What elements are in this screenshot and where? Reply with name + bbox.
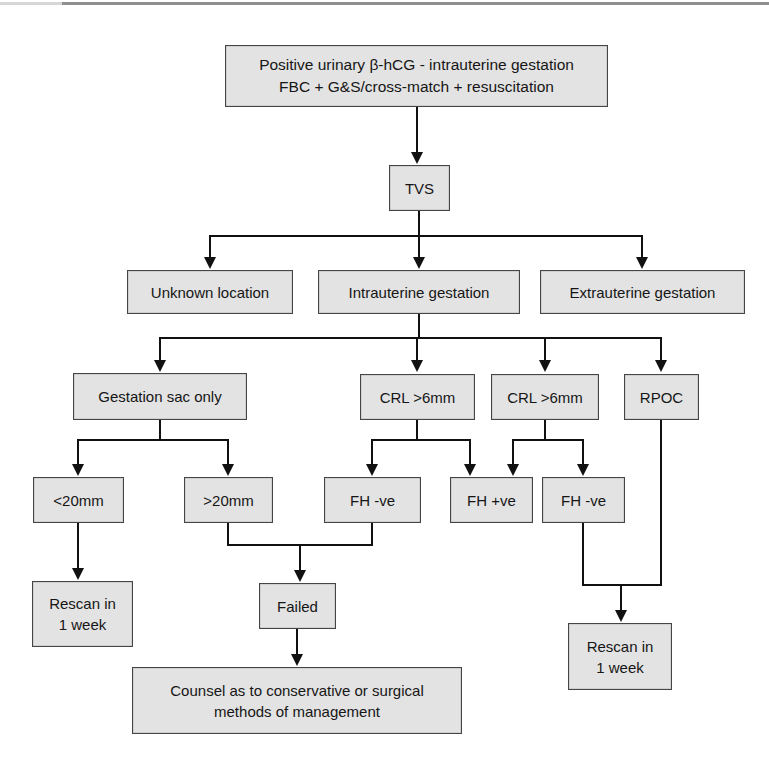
node-fh-negative-2: FH -ve	[542, 477, 625, 523]
node-rescan-1-week-left: Rescan in 1 week	[32, 581, 133, 647]
node-extrauterine-gestation: Extrauterine gestation	[540, 270, 745, 314]
node-rescan-1-week-right: Rescan in 1 week	[568, 623, 672, 690]
node-positive-bhcg: Positive urinary β-hCG - intrauterine ge…	[225, 45, 608, 107]
node-crl-6mm-2: CRL >6mm	[491, 374, 599, 420]
flowchart-page: Positive urinary β-hCG - intrauterine ge…	[0, 0, 769, 757]
edge-intrauterine-branches	[159, 314, 662, 366]
node-unknown-location: Unknown location	[127, 270, 293, 314]
node-greater-than-20mm: >20mm	[184, 477, 273, 523]
node-tvs: TVS	[389, 165, 450, 211]
node-rpoc: RPOC	[624, 374, 699, 420]
node-fh-positive: FH +ve	[450, 477, 533, 523]
node-less-than-20mm: <20mm	[33, 477, 124, 523]
edge-merge-failed	[227, 523, 373, 576]
edge-crl1-branches	[371, 420, 471, 470]
page-top-rule-left-segment	[0, 2, 62, 5]
edge-sac-branches	[77, 420, 229, 470]
node-crl-6mm-1: CRL >6mm	[360, 374, 475, 420]
edge-tvs-branches	[209, 211, 643, 263]
node-gestation-sac-only: Gestation sac only	[73, 373, 247, 420]
node-failed: Failed	[259, 583, 336, 629]
node-counsel-management: Counsel as to conservative or surgical m…	[132, 667, 462, 734]
page-top-rule	[0, 2, 769, 5]
node-fh-negative-1: FH -ve	[324, 477, 421, 523]
edge-crl2-branches	[512, 420, 584, 470]
node-intrauterine-gestation: Intrauterine gestation	[318, 270, 520, 314]
